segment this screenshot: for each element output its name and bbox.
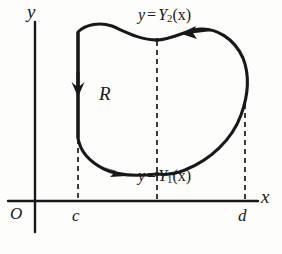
lower-curve-equation: y=Y1(x) [138,168,191,185]
figure-canvas: y x O c d R y=Y2(x) y=Y1(x) [0,0,282,254]
y-axis-label: y [27,2,35,21]
upper-eq-operator: = [145,6,158,23]
orientation-arrow-down-icon [72,72,85,97]
x-tick-label-d: d [238,207,247,224]
origin-label: O [10,205,22,222]
x-tick-label-c: c [72,207,80,224]
lower-eq-arg: (x) [172,167,191,184]
upper-eq-arg: (x) [172,6,191,23]
upper-curve-equation: y=Y2(x) [138,7,191,24]
lower-eq-operator: = [145,167,158,184]
junction-dot-upper [155,38,159,42]
region-label: R [99,84,111,103]
upper-eq-func: Y [158,6,167,23]
lower-eq-func: Y [158,167,167,184]
x-axis-label: x [261,187,269,206]
